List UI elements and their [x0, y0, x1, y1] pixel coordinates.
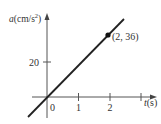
x-axis-label: t(s) — [144, 97, 157, 109]
x-tick-label-2: 2 — [108, 102, 113, 113]
y-axis-label: a(cm/s2) — [9, 12, 41, 25]
x-tick-label-1: 1 — [76, 102, 81, 113]
y-axis-arrow-icon — [45, 13, 50, 20]
x-axis-unit: (s) — [147, 97, 158, 109]
y-axis-unit-close: ) — [38, 14, 41, 25]
acceleration-time-chart: 0 1 2 t(s) 20 a(cm/s2) (2, 36) — [0, 0, 161, 124]
data-point-label: (2, 36) — [112, 31, 139, 43]
data-point-2-36 — [105, 32, 110, 37]
x-axis: 0 1 2 t(s) — [32, 93, 157, 113]
y-axis-unit-open: (cm/s — [14, 14, 35, 25]
y-axis: 20 a(cm/s2) — [9, 12, 51, 118]
y-tick-label-20: 20 — [29, 57, 39, 68]
x-tick-label-0: 0 — [50, 102, 55, 113]
